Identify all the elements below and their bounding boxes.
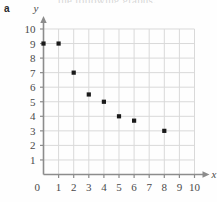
x-axis-arrowhead: [203, 171, 210, 177]
y-tick-label: 5: [20, 97, 36, 108]
x-tick-label: 8: [158, 182, 170, 193]
y-tick-label: 1: [20, 155, 36, 166]
x-tick-label: 3: [83, 182, 95, 193]
y-tick-label: 4: [20, 111, 36, 122]
figure-container: the following graphs. a 1234567891012345…: [0, 0, 217, 202]
y-tick-label: 8: [20, 53, 36, 64]
y-tick-label: 2: [20, 140, 36, 151]
y-tick-label: 3: [20, 126, 36, 137]
x-axis-label: x: [212, 169, 217, 180]
y-tick-label: 6: [20, 82, 36, 93]
axis-lines: [40, 16, 209, 178]
y-axis-arrowhead: [40, 16, 46, 23]
y-tick-label: 9: [20, 39, 36, 50]
data-point: [102, 100, 106, 104]
y-tick-label: 10: [20, 24, 36, 35]
tick-marks: [40, 29, 195, 178]
y-axis-label: y: [34, 3, 39, 14]
x-tick-label: 9: [173, 182, 185, 193]
data-point: [162, 129, 166, 133]
y-tick-label: 7: [20, 68, 36, 79]
data-point: [87, 92, 91, 96]
x-tick-label: 5: [113, 182, 125, 193]
x-tick-label: 1: [53, 182, 65, 193]
x-tick-label: 2: [68, 182, 80, 193]
data-point: [41, 41, 45, 45]
data-point: [72, 71, 76, 75]
origin-label: 0: [35, 182, 41, 193]
data-point: [132, 119, 136, 123]
x-tick-label: 4: [98, 182, 110, 193]
data-point: [57, 41, 61, 45]
x-tick-label: 10: [189, 182, 201, 193]
x-tick-label: 6: [128, 182, 140, 193]
data-point: [117, 114, 121, 118]
grid-lines: [44, 29, 195, 175]
x-tick-label: 7: [143, 182, 155, 193]
